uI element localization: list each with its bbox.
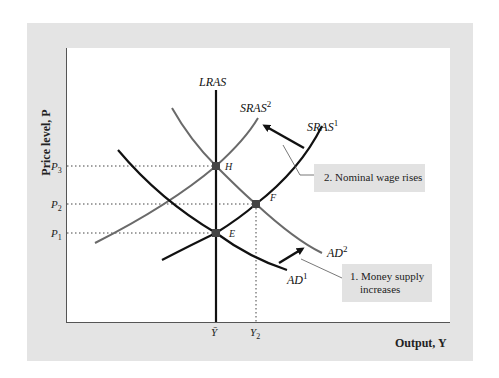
- sras2-curve: [95, 118, 258, 243]
- sras-shift-arrow: [265, 126, 304, 148]
- sras2-label: SRAS2: [240, 99, 271, 115]
- annotation-money-supply-line1: 1. Money supply: [350, 270, 424, 282]
- guide-lines: [67, 166, 256, 322]
- sras1-label-sup: 1: [334, 118, 339, 128]
- annotation-money-supply-line2: increases: [350, 283, 432, 296]
- y-tick-p3-sub: 3: [58, 166, 62, 175]
- ad2-label-sup: 2: [343, 244, 348, 254]
- annotation-nominal-wage: 2. Nominal wage rises: [314, 164, 425, 192]
- sras1-curve: [162, 126, 322, 260]
- ad2-label-text: AD: [326, 246, 343, 260]
- ad-shift-arrow: [279, 249, 302, 263]
- y-tick-p1: P1: [50, 227, 62, 242]
- point-h-marker: [212, 162, 220, 170]
- y-tick-p2-sub: 2: [58, 204, 62, 213]
- ad1-label: AD1: [286, 271, 308, 287]
- ad2-label: AD2: [326, 244, 348, 260]
- ad2-curve: [172, 108, 322, 253]
- annotation-money-supply: 1. Money supply increases: [342, 264, 432, 302]
- ad1-label-text: AD: [286, 273, 303, 287]
- point-f-marker: [252, 200, 260, 208]
- annotation-nominal-wage-text: 2. Nominal wage rises: [324, 171, 422, 183]
- sras2-label-text: SRAS: [240, 101, 267, 115]
- ad1-label-sup: 1: [303, 271, 308, 281]
- x-tick-y2-sub: 2: [256, 332, 260, 341]
- point-e-label: E: [228, 228, 235, 239]
- sras2-label-sup: 2: [267, 99, 272, 109]
- point-f-label: F: [269, 192, 277, 203]
- sras1-label-text: SRAS: [307, 120, 334, 134]
- x-tick-y2: Y2: [250, 326, 260, 341]
- point-h-label: H: [224, 161, 233, 172]
- point-e-marker: [212, 229, 220, 237]
- x-tick-ybar: Ȳ: [211, 326, 219, 338]
- sras1-label: SRAS1: [307, 118, 338, 134]
- y-tick-p2: P2: [50, 198, 62, 213]
- y-tick-p1-sub: 1: [58, 233, 62, 242]
- lras-label: LRAS: [198, 75, 226, 89]
- y-tick-p3: P3: [50, 160, 62, 175]
